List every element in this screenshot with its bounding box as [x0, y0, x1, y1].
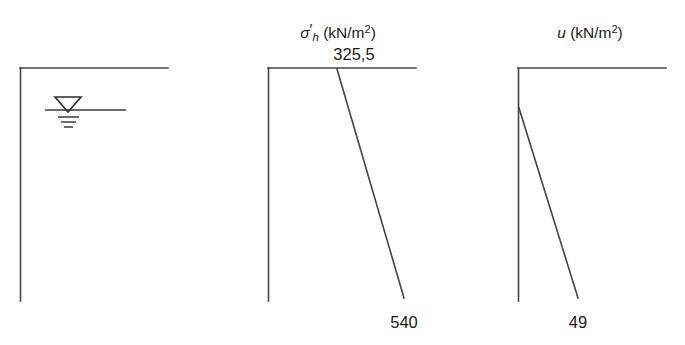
- water-table-symbol: [45, 97, 126, 127]
- pore-pressure-bottom-value: 49: [569, 313, 587, 331]
- u-units-close: ): [618, 24, 623, 41]
- figure-canvas: σ′h (kN/m2) 325,5 540 u (kN/m2) 49: [0, 0, 685, 345]
- sigma-units-close: ): [371, 24, 376, 41]
- sigma-units-open: (kN/m: [319, 24, 365, 41]
- effective-stress-axis-title: σ′h (kN/m2): [300, 20, 376, 43]
- effective-stress-top-value: 325,5: [333, 45, 374, 63]
- pore-pressure-panel: u (kN/m2) 49: [518, 23, 666, 331]
- geotechnical-pressure-diagram: σ′h (kN/m2) 325,5 540 u (kN/m2) 49: [0, 0, 685, 345]
- pore-pressure-distribution-line: [519, 108, 578, 298]
- u-units-open: (kN/m: [566, 24, 612, 41]
- soil-profile-panel: [20, 68, 168, 301]
- effective-stress-panel: σ′h (kN/m2) 325,5 540: [268, 20, 418, 331]
- effective-stress-bottom-value: 540: [390, 313, 418, 331]
- pore-pressure-axis-title: u (kN/m2): [557, 23, 623, 41]
- effective-stress-distribution-line: [337, 69, 404, 298]
